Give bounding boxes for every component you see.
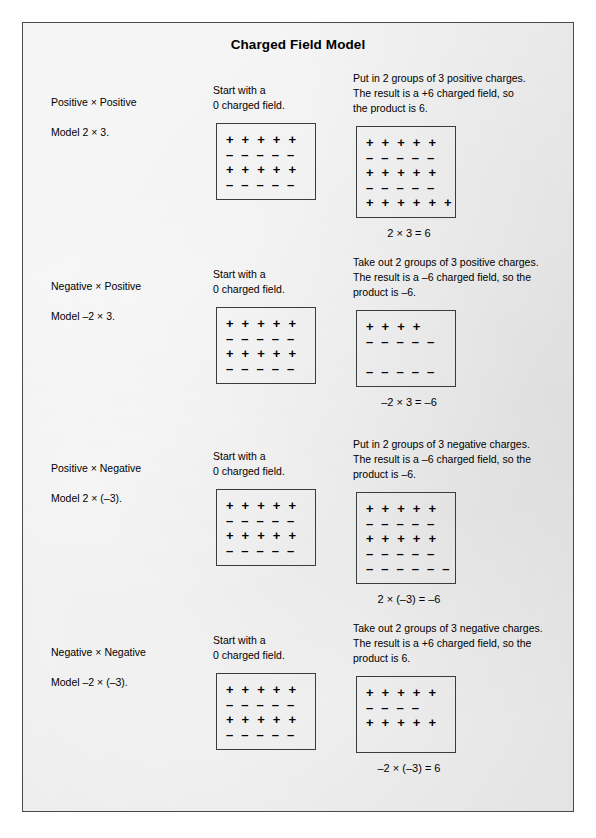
charge-row: – – – – – – bbox=[357, 561, 455, 576]
charge-row: + + + + bbox=[357, 319, 455, 334]
start-caption-line-2: 0 charged field. bbox=[213, 648, 353, 663]
action-caption: Take out 2 groups of 3 negative charges.… bbox=[353, 621, 563, 666]
charge-row: – – – – – bbox=[357, 516, 455, 531]
charge-row: + + + + + bbox=[217, 498, 315, 513]
section-equation: –2 × (–3) = 6 bbox=[356, 762, 462, 774]
charge-row: – – – – – bbox=[217, 727, 315, 742]
charge-row: + + + + + + bbox=[357, 195, 455, 210]
result-field-column: Put in 2 groups of 3 positive charges.Th… bbox=[353, 71, 563, 239]
section-positive-times-negative: Positive × NegativeModel 2 × (–3).Start … bbox=[23, 437, 573, 617]
charge-row: – – – – bbox=[357, 700, 455, 715]
charge-row: – – – – – bbox=[217, 543, 315, 558]
start-field-column: Start with a0 charged field.+ + + + +– –… bbox=[213, 621, 353, 750]
start-caption: Start with a0 charged field. bbox=[213, 267, 353, 297]
charge-row: + + + + + bbox=[357, 165, 455, 180]
section-label-column: Negative × NegativeModel –2 × (–3). bbox=[51, 621, 211, 689]
charge-row: – – – – – bbox=[217, 697, 315, 712]
result-charged-field-box: + + + + +– – – –+ + + + + bbox=[356, 676, 456, 753]
charge-row bbox=[357, 730, 455, 745]
section-label-column: Positive × PositiveModel 2 × 3. bbox=[51, 71, 211, 139]
action-caption-line-3: product is 6. bbox=[353, 651, 563, 666]
start-field-column: Start with a0 charged field.+ + + + +– –… bbox=[213, 71, 353, 200]
charge-row: – – – – – bbox=[217, 331, 315, 346]
action-caption-line-1: Put in 2 groups of 3 negative charges. bbox=[353, 437, 563, 452]
charge-row: + + + + + bbox=[357, 135, 455, 150]
action-caption: Take out 2 groups of 3 positive charges.… bbox=[353, 255, 563, 300]
section-equation: 2 × 3 = 6 bbox=[356, 227, 462, 239]
charge-row: + + + + + bbox=[217, 346, 315, 361]
charge-row: + + + + + bbox=[217, 712, 315, 727]
start-caption-line-1: Start with a bbox=[213, 267, 353, 282]
action-caption-line-3: product is –6. bbox=[353, 285, 563, 300]
charge-row: + + + + + bbox=[217, 132, 315, 147]
start-caption-line-1: Start with a bbox=[213, 83, 353, 98]
section-label-column: Negative × PositiveModel –2 × 3. bbox=[51, 255, 211, 323]
result-field-column: Put in 2 groups of 3 negative charges.Th… bbox=[353, 437, 563, 605]
charge-row: + + + + + bbox=[217, 316, 315, 331]
start-charged-field-box: + + + + +– – – – –+ + + + +– – – – – bbox=[216, 489, 316, 566]
result-charged-field-box: + + + + +– – – – –+ + + + +– – – – –+ + … bbox=[356, 126, 456, 218]
charge-row: + + + + + bbox=[217, 528, 315, 543]
section-heading: Positive × Positive bbox=[51, 95, 211, 109]
section-equation: 2 × (–3) = –6 bbox=[356, 593, 462, 605]
start-caption-line-2: 0 charged field. bbox=[213, 464, 353, 479]
start-caption: Start with a0 charged field. bbox=[213, 449, 353, 479]
result-field-column: Take out 2 groups of 3 negative charges.… bbox=[353, 621, 563, 774]
start-caption: Start with a0 charged field. bbox=[213, 83, 353, 113]
start-caption-line-1: Start with a bbox=[213, 449, 353, 464]
start-charged-field-box: + + + + +– – – – –+ + + + +– – – – – bbox=[216, 123, 316, 200]
action-caption-line-2: The result is a +6 charged field, so the bbox=[353, 636, 563, 651]
section-heading: Positive × Negative bbox=[51, 461, 211, 475]
action-caption-line-2: The result is a +6 charged field, so bbox=[353, 86, 563, 101]
charge-row: – – – – – bbox=[357, 150, 455, 165]
charge-row: + + + + + bbox=[357, 531, 455, 546]
action-caption-line-3: product is –6. bbox=[353, 467, 563, 482]
action-caption-line-1: Take out 2 groups of 3 positive charges. bbox=[353, 255, 563, 270]
section-positive-times-positive: Positive × PositiveModel 2 × 3.Start wit… bbox=[23, 71, 573, 251]
section-equation: –2 × 3 = –6 bbox=[356, 396, 462, 408]
action-caption-line-2: The result is a –6 charged field, so the bbox=[353, 270, 563, 285]
section-negative-times-negative: Negative × NegativeModel –2 × (–3).Start… bbox=[23, 621, 573, 801]
charge-row: + + + + + bbox=[357, 715, 455, 730]
charge-row: – – – – – bbox=[217, 147, 315, 162]
action-caption: Put in 2 groups of 3 negative charges.Th… bbox=[353, 437, 563, 482]
start-charged-field-box: + + + + +– – – – –+ + + + +– – – – – bbox=[216, 307, 316, 384]
result-charged-field-box: + + + +– – – – – – – – – – bbox=[356, 310, 456, 387]
charge-row: – – – – – bbox=[357, 180, 455, 195]
charge-row: – – – – – bbox=[217, 513, 315, 528]
start-field-column: Start with a0 charged field.+ + + + +– –… bbox=[213, 437, 353, 566]
action-caption-line-3: the product is 6. bbox=[353, 101, 563, 116]
charge-row: – – – – – bbox=[357, 546, 455, 561]
section-model-expression: Model 2 × (–3). bbox=[51, 491, 211, 505]
charged-field-model-panel: Charged Field Model Positive × PositiveM… bbox=[22, 22, 574, 812]
start-caption-line-2: 0 charged field. bbox=[213, 98, 353, 113]
section-model-expression: Model –2 × 3. bbox=[51, 309, 211, 323]
start-caption-line-2: 0 charged field. bbox=[213, 282, 353, 297]
figure-caption bbox=[0, 821, 596, 833]
start-field-column: Start with a0 charged field.+ + + + +– –… bbox=[213, 255, 353, 384]
start-caption-line-1: Start with a bbox=[213, 633, 353, 648]
charge-row: – – – – – bbox=[217, 361, 315, 376]
start-caption: Start with a0 charged field. bbox=[213, 633, 353, 663]
charge-row bbox=[357, 349, 455, 364]
page-title: Charged Field Model bbox=[23, 37, 573, 52]
result-charged-field-box: + + + + +– – – – –+ + + + +– – – – –– – … bbox=[356, 492, 456, 584]
section-heading: Negative × Negative bbox=[51, 645, 211, 659]
start-charged-field-box: + + + + +– – – – –+ + + + +– – – – – bbox=[216, 673, 316, 750]
charge-row: – – – – – bbox=[357, 334, 455, 349]
result-field-column: Take out 2 groups of 3 positive charges.… bbox=[353, 255, 563, 408]
charge-row: – – – – – bbox=[357, 364, 455, 379]
action-caption-line-2: The result is a –6 charged field, so the bbox=[353, 452, 563, 467]
charge-row: + + + + + bbox=[217, 162, 315, 177]
section-model-expression: Model –2 × (–3). bbox=[51, 675, 211, 689]
action-caption-line-1: Take out 2 groups of 3 negative charges. bbox=[353, 621, 563, 636]
charge-row: + + + + + bbox=[217, 682, 315, 697]
charge-row: – – – – – bbox=[217, 177, 315, 192]
section-model-expression: Model 2 × 3. bbox=[51, 125, 211, 139]
section-label-column: Positive × NegativeModel 2 × (–3). bbox=[51, 437, 211, 505]
charge-row: + + + + + bbox=[357, 685, 455, 700]
section-heading: Negative × Positive bbox=[51, 279, 211, 293]
section-negative-times-positive: Negative × PositiveModel –2 × 3.Start wi… bbox=[23, 255, 573, 435]
action-caption-line-1: Put in 2 groups of 3 positive charges. bbox=[353, 71, 563, 86]
action-caption: Put in 2 groups of 3 positive charges.Th… bbox=[353, 71, 563, 116]
